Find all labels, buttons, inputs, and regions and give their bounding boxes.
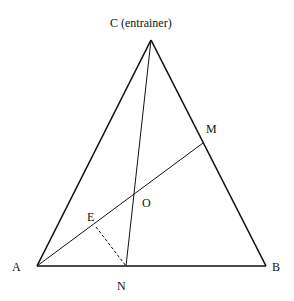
label-m: M (206, 123, 217, 135)
segment-am (37, 143, 203, 266)
label-c: C (entrainer) (110, 17, 172, 29)
label-n: N (117, 280, 126, 292)
triangle-diagram (0, 0, 294, 301)
label-b: B (272, 261, 280, 273)
side-ca (37, 40, 151, 266)
side-bc (151, 40, 266, 266)
label-o: O (142, 197, 151, 209)
label-e: E (87, 211, 94, 223)
segment-cn (126, 40, 151, 266)
segment-en-dashed (96, 227, 126, 266)
label-a: A (12, 261, 21, 273)
